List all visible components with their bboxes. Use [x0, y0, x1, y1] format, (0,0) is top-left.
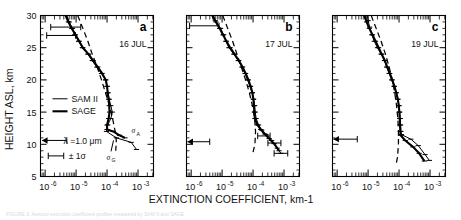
- sigma-a-label: σ: [132, 126, 136, 135]
- x-tick-exponent: -5: [228, 180, 234, 187]
- x-tick-exponent: -4: [113, 180, 119, 187]
- series-thin: [367, 16, 429, 161]
- panel-a: 5101520253010-610-510-410-3a16 JULSAM II…: [26, 11, 153, 192]
- panel-date: 16 JUL: [119, 39, 146, 49]
- data-layer: [42, 16, 139, 151]
- sigma-a-subscript: A: [137, 131, 141, 137]
- x-tick-label: 10: [247, 182, 257, 192]
- y-tick-label: 25: [26, 43, 36, 53]
- x-tick-exponent: -3: [144, 180, 150, 187]
- sigma-g-label: σ: [107, 153, 111, 162]
- error-note-label: ± 1σ: [69, 151, 87, 161]
- x-tick-label: 10: [132, 182, 142, 192]
- y-tick-label: 5: [31, 172, 36, 182]
- series-thick: [66, 16, 125, 138]
- x-tick-exponent: -4: [259, 180, 265, 187]
- x-tick-exponent: -5: [82, 180, 88, 187]
- y-tick-label: 15: [26, 108, 36, 118]
- data-layer: [187, 16, 287, 157]
- x-tick-exponent: -4: [405, 180, 411, 187]
- x-tick-exponent: -6: [197, 180, 203, 187]
- x-tick-exponent: -3: [290, 180, 296, 187]
- x-tick-label: 10: [185, 182, 195, 192]
- legend-label: SAGE: [72, 106, 97, 116]
- y-tick-label: 20: [26, 75, 36, 85]
- x-tick-label: 10: [362, 182, 372, 192]
- y-tick-label: 10: [26, 140, 36, 150]
- x-tick-label: 10: [424, 182, 434, 192]
- legend-label: SAM II: [72, 94, 98, 104]
- x-tick-label: 10: [70, 182, 80, 192]
- x-tick-label: 10: [331, 182, 341, 192]
- y-axis-title: HEIGHT ASL, km: [3, 68, 15, 150]
- x-tick-label: 10: [101, 182, 111, 192]
- x-tick-label: 10: [216, 182, 226, 192]
- x-axis-title: EXTINCTION COEFFICIENT, km-1: [149, 193, 314, 205]
- panel-letter: b: [285, 20, 292, 34]
- error-bar-arrow: [333, 136, 339, 142]
- series-dashed: [371, 16, 398, 165]
- series-thick: [212, 16, 279, 151]
- wavelength-label: λ =1.0 μm: [64, 136, 102, 146]
- panel-letter: a: [140, 20, 147, 34]
- figure-caption-faint: FIGURE 3. Aerosol extinction coefficient…: [6, 211, 456, 219]
- y-tick-label: 30: [26, 11, 36, 21]
- extinction-profile-figure: HEIGHT ASL, kmEXTINCTION COEFFICIENT, km…: [0, 0, 461, 220]
- panel-b: 10-610-510-410-3b17 JUL: [185, 16, 299, 192]
- x-tick-exponent: -6: [51, 180, 57, 187]
- x-tick-label: 10: [39, 182, 49, 192]
- panel-date: 19 JUL: [411, 39, 438, 49]
- sigma-g-subscript: G: [112, 157, 116, 163]
- x-tick-exponent: -5: [374, 180, 380, 187]
- x-tick-exponent: -3: [436, 180, 442, 187]
- series-thin: [67, 16, 137, 150]
- panel-letter: c: [432, 20, 439, 34]
- panel-c: 10-610-510-410-3c19 JUL: [331, 16, 445, 192]
- figure-root: HEIGHT ASL, kmEXTINCTION COEFFICIENT, km…: [0, 0, 461, 220]
- x-tick-label: 10: [393, 182, 403, 192]
- sigma-g-leader: [111, 140, 114, 151]
- panel-date: 17 JUL: [265, 39, 292, 49]
- x-tick-exponent: -6: [343, 180, 349, 187]
- x-tick-label: 10: [278, 182, 288, 192]
